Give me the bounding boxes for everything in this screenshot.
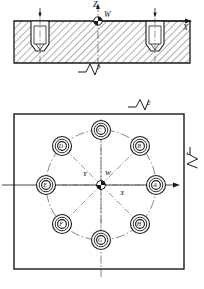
surface-finish-value-plan-right: 4 [184, 152, 191, 156]
surface-finish-value-section: 3 [97, 64, 101, 71]
surface-finish-symbol-section [78, 64, 99, 75]
hole-label-G: G [98, 237, 102, 243]
hole-label-E: E [43, 182, 47, 188]
origin-marker-section [94, 17, 102, 25]
hole-label-A: A [153, 182, 157, 188]
origin-marker-plan [97, 181, 106, 190]
hole-label-F: F [59, 221, 63, 227]
section-view-graphic [0, 0, 204, 100]
origin-label-section: W [104, 11, 111, 19]
surface-finish-symbol-plan-right [187, 147, 198, 168]
hole-label-H: H [137, 221, 141, 227]
technical-drawing: Z X W 3 [0, 0, 204, 289]
x-axis-label-plan: X [120, 190, 124, 197]
surface-finish-symbol-plan-top [128, 100, 149, 111]
surface-finish-value-plan-top: 2 [147, 100, 151, 107]
origin-label-plan: W [105, 170, 111, 177]
y-axis-label-plan: Y [83, 171, 87, 178]
x-axis-label-section: X [183, 24, 188, 32]
hole-label-D: D [59, 143, 63, 149]
section-hole-ticks [38, 8, 156, 18]
hole-label-C: C [98, 127, 102, 133]
z-axis-label: Z [93, 1, 97, 9]
hole-label-B: B [137, 143, 141, 149]
